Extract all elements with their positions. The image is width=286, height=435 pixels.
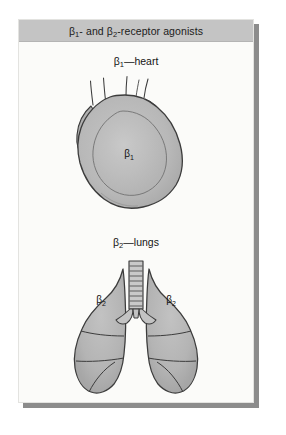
panel-body: β1—heart [19, 43, 253, 403]
heart-illustration: β1 [19, 73, 253, 233]
trachea [129, 261, 143, 309]
lung-right-receptor-label: β2 [166, 294, 176, 307]
figure-root: β1- and β2-receptor agonists β1—heart [0, 0, 286, 435]
panel-title: β1- and β2-receptor agonists [69, 25, 203, 37]
lungs-section-caption: β2—lungs [19, 236, 253, 248]
heart-section-caption: β1—heart [19, 55, 253, 67]
carina [133, 309, 139, 318]
lung-left-receptor-label: β2 [96, 294, 106, 307]
lungs-illustration: β2 β2 [19, 255, 253, 403]
panel-header: β1- and β2-receptor agonists [19, 20, 253, 42]
illustration-panel: β1- and β2-receptor agonists β1—heart [18, 19, 254, 403]
